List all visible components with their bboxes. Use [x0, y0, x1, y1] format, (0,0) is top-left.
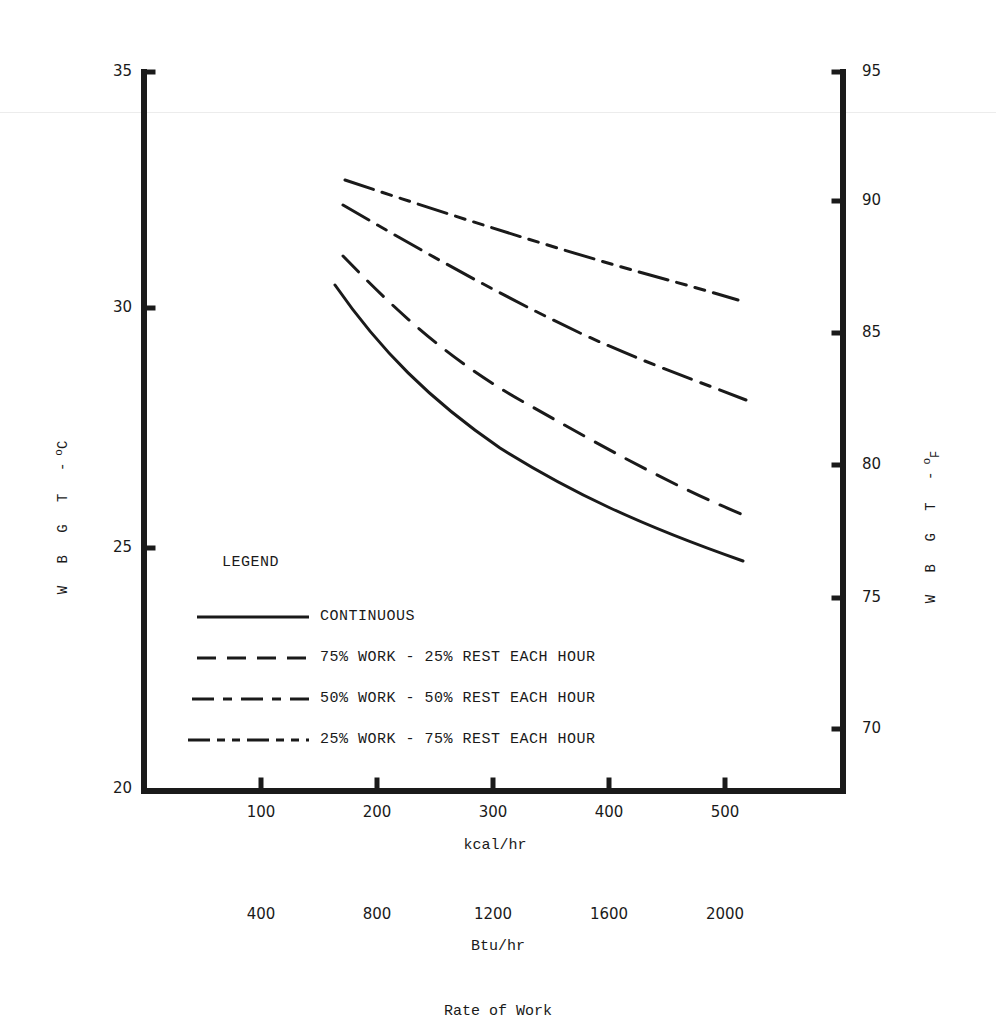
axes	[144, 72, 843, 791]
wbgt-chart: 35 30 25 20 95 90 85 80 75 70 100 200 30…	[0, 0, 996, 1020]
y-axis-title-right: W B G T -oF	[921, 463, 943, 603]
y-left-tick-35: 35	[92, 62, 132, 80]
y-right-tick-90: 90	[862, 191, 881, 209]
x-btu-tick-2000: 2000	[695, 905, 755, 923]
legend-item-50-50: 50% WORK - 50% REST EACH HOUR	[320, 690, 596, 707]
y-right-tick-85: 85	[862, 323, 881, 341]
legend-samples	[188, 617, 309, 740]
y-right-tick-95: 95	[862, 62, 881, 80]
y-left-tick-20: 20	[92, 779, 132, 797]
y-left-tick-30: 30	[92, 298, 132, 316]
y-right-tick-80: 80	[862, 455, 881, 473]
x-kcal-tick-100: 100	[231, 803, 291, 821]
x-btu-tick-1600: 1600	[579, 905, 639, 923]
x-axis-title-kcal: kcal/hr	[440, 837, 550, 854]
curve-50-work-50-rest	[343, 205, 746, 400]
legend-item-continuous: CONTINUOUS	[320, 608, 415, 625]
x-kcal-tick-300: 300	[463, 803, 523, 821]
y-axis-title-left: W B G T -oC	[53, 454, 72, 594]
x-axis-title-btu: Btu/hr	[448, 938, 548, 955]
x-btu-tick-800: 800	[347, 905, 407, 923]
legend-title: LEGEND	[222, 554, 279, 571]
x-axis-footer-rate-of-work: Rate of Work	[398, 1003, 598, 1020]
curve-75-work-25-rest	[343, 256, 746, 516]
x-btu-tick-400: 400	[231, 905, 291, 923]
x-kcal-tick-500: 500	[695, 803, 755, 821]
curve-continuous	[335, 285, 743, 561]
x-btu-tick-1200: 1200	[463, 905, 523, 923]
y-right-tick-75: 75	[862, 588, 881, 606]
legend-item-25-75: 25% WORK - 75% REST EACH HOUR	[320, 731, 596, 748]
y-right-tick-70: 70	[862, 719, 881, 737]
curves	[335, 180, 746, 561]
y-left-tick-25: 25	[92, 538, 132, 556]
legend-item-75-25: 75% WORK - 25% REST EACH HOUR	[320, 649, 596, 666]
x-kcal-tick-400: 400	[579, 803, 639, 821]
plot-svg	[0, 0, 996, 1020]
x-kcal-tick-200: 200	[347, 803, 407, 821]
